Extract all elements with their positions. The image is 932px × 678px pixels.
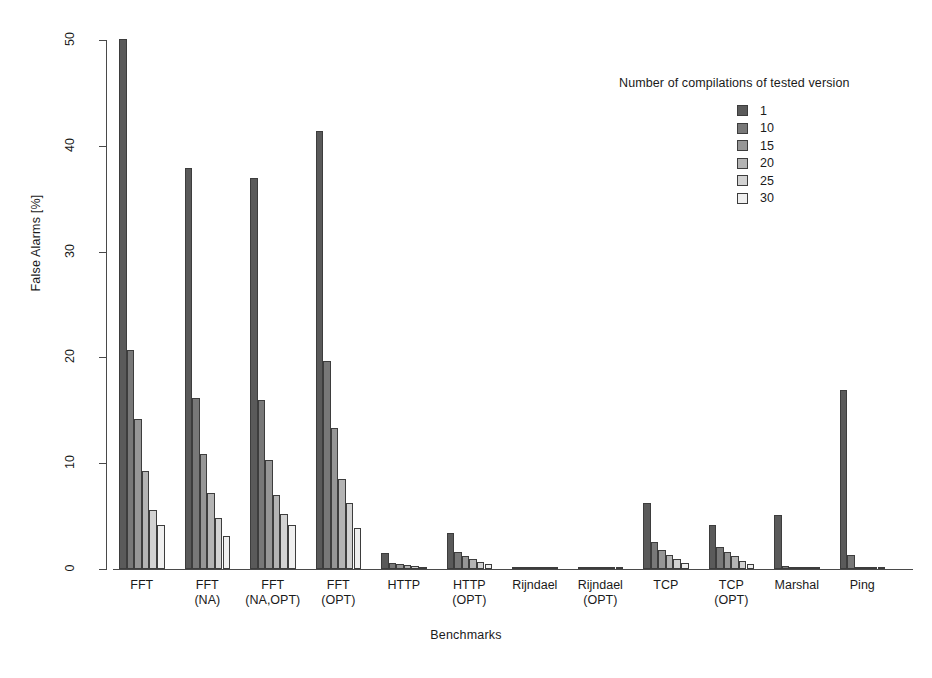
bar	[185, 168, 193, 569]
bar	[338, 479, 346, 569]
bar	[847, 555, 855, 569]
bar	[323, 361, 331, 569]
bar-group	[381, 40, 427, 569]
legend-swatch-icon	[737, 105, 748, 116]
legend-label: 10	[760, 122, 774, 134]
legend-swatch-icon	[737, 123, 748, 134]
bar	[774, 515, 782, 569]
bar	[331, 428, 339, 569]
bar	[535, 567, 543, 569]
bar-group	[316, 40, 362, 569]
bar-group	[447, 40, 493, 569]
bar	[716, 547, 724, 569]
bar	[419, 567, 427, 569]
bar	[658, 550, 666, 569]
bar	[789, 567, 797, 569]
bar	[782, 566, 790, 569]
bar	[673, 559, 681, 569]
x-axis-line	[113, 569, 913, 570]
legend-swatch-icon	[737, 158, 748, 169]
bar	[127, 350, 135, 569]
bar	[258, 400, 266, 569]
x-axis-title: Benchmarks	[0, 628, 932, 642]
bar	[512, 567, 520, 569]
bar	[600, 567, 608, 569]
x-tick-label-line2: (OPT)	[540, 593, 660, 608]
y-tick-label-0: 0	[63, 548, 77, 588]
bar	[542, 567, 550, 569]
bar	[192, 398, 200, 569]
bar	[797, 567, 805, 569]
y-tick-30	[99, 252, 107, 253]
bar	[804, 567, 812, 569]
x-tick-label: Ping	[802, 578, 922, 593]
bar	[608, 567, 616, 569]
bar	[411, 566, 419, 569]
legend-swatch-icon	[737, 193, 748, 204]
bar	[157, 525, 165, 569]
bar	[643, 503, 651, 569]
bar-group	[185, 40, 231, 569]
bar	[149, 510, 157, 569]
bar	[280, 514, 288, 569]
legend-label: 25	[760, 175, 774, 187]
bar	[520, 567, 528, 569]
legend-label: 15	[760, 140, 774, 152]
x-tick-label-line2: (OPT)	[409, 593, 529, 608]
bar	[666, 555, 674, 569]
y-tick-label-20: 20	[63, 336, 77, 376]
legend-item: 20	[737, 155, 919, 173]
legend-item: 30	[737, 190, 919, 208]
bar	[223, 536, 231, 569]
bar	[288, 525, 296, 569]
bar	[739, 561, 747, 569]
bar	[862, 567, 870, 569]
bar-group	[578, 40, 624, 569]
y-tick-label-30: 30	[63, 231, 77, 271]
bar	[396, 564, 404, 569]
bar-group	[119, 40, 165, 569]
bar	[469, 559, 477, 569]
bar	[316, 131, 324, 569]
bar	[585, 567, 593, 569]
y-tick-40	[99, 146, 107, 147]
bar	[134, 419, 142, 569]
bar-chart-figure: False Alarms [%] 01020304050 FFTFFT(NA)F…	[0, 0, 932, 678]
bar	[207, 493, 215, 569]
bar	[454, 552, 462, 569]
bar	[354, 528, 362, 569]
bar	[485, 564, 493, 569]
bar	[550, 567, 558, 569]
x-tick-label-line2: (OPT)	[278, 593, 398, 608]
bar	[855, 567, 863, 569]
bar	[616, 567, 624, 569]
bar	[462, 556, 470, 569]
bar	[477, 562, 485, 569]
bar	[681, 563, 689, 569]
y-tick-label-50: 50	[63, 19, 77, 59]
bar	[119, 39, 127, 569]
bar-group	[512, 40, 558, 569]
legend-item: 15	[737, 137, 919, 155]
y-tick-label-10: 10	[63, 442, 77, 482]
bar	[215, 518, 223, 569]
bar	[200, 454, 208, 569]
bar	[724, 552, 732, 569]
bar	[527, 567, 535, 569]
legend: Number of compilations of tested version…	[619, 76, 919, 207]
legend-title: Number of compilations of tested version	[619, 76, 919, 90]
legend-label: 1	[760, 105, 767, 117]
y-tick-label-40: 40	[63, 125, 77, 165]
x-tick-label-line2: (OPT)	[671, 593, 791, 608]
bar	[346, 503, 354, 569]
y-axis-title: False Alarms [%]	[29, 143, 43, 343]
bar	[381, 553, 389, 569]
y-tick-20	[99, 357, 107, 358]
x-tick-label-line1: Ping	[850, 578, 875, 592]
legend-swatch-icon	[737, 175, 748, 186]
y-tick-0	[99, 569, 107, 570]
bar	[273, 495, 281, 569]
legend-item: 1	[737, 102, 919, 120]
bar	[578, 567, 586, 569]
bar	[250, 178, 258, 569]
